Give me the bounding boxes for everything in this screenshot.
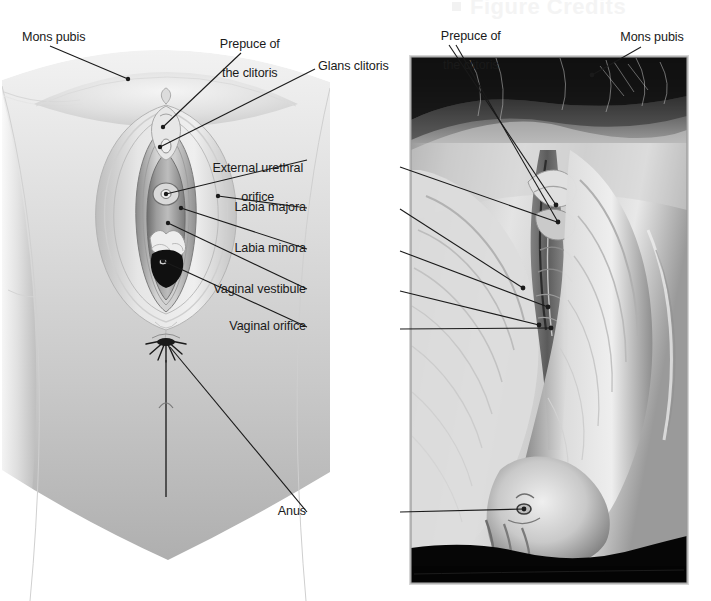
- label-prepuce-right-line1: Prepuce of: [441, 29, 501, 43]
- label-vaginal-vestibule: Vaginal vestibule: [186, 282, 306, 297]
- label-labia-minora: Labia minora: [196, 241, 306, 256]
- leader-vaginal-vestibule: [168, 223, 307, 289]
- leader-mons-pubis-left: [50, 46, 128, 79]
- leader-minora-photo: [400, 251, 548, 307]
- label-prepuce-left-line2: the clitoris: [222, 66, 278, 80]
- label-prepuce-right: Prepuce of the clitoris: [412, 14, 516, 87]
- leader-mons-pubis-right: [592, 47, 641, 75]
- figure-canvas: Figure Credits: [0, 0, 711, 601]
- leader-anus: [170, 347, 307, 512]
- label-labia-majora: Labia majora: [196, 200, 306, 215]
- leader-lines: [0, 0, 711, 601]
- leader-anus-photo: [400, 509, 524, 512]
- label-mons-pubis-right: Mons pubis: [600, 30, 704, 45]
- leader-orifice-photo: [400, 328, 551, 329]
- label-anus: Anus: [226, 504, 306, 519]
- label-prepuce-right-line2: the clitoris: [443, 58, 499, 72]
- leader-urethral-photo: [400, 167, 557, 222]
- label-prepuce-left-line1: Prepuce of: [220, 37, 280, 51]
- label-prepuce-left: Prepuce of the clitoris: [188, 22, 298, 95]
- leader-majora-photo: [400, 209, 523, 288]
- label-mons-pubis-left: Mons pubis: [22, 30, 132, 45]
- label-vaginal-orifice: Vaginal orifice: [196, 319, 306, 334]
- label-external-urethral-line1: External urethral: [212, 161, 303, 175]
